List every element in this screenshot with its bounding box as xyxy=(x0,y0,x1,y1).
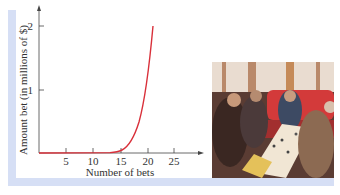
decorative-bottom-border xyxy=(8,178,334,186)
x-tick-label-25: 25 xyxy=(169,155,181,167)
y-axis-title: Amount bet (in millions of $) xyxy=(17,25,30,155)
y-axis-arrow-icon xyxy=(37,5,41,11)
people-playing-game-photo xyxy=(212,62,334,178)
exponential-growth-chart: 2 1 5 10 15 20 25 Number of bets Amount … xyxy=(0,0,215,178)
x-axis-arrow-icon xyxy=(198,151,204,155)
x-tick-label-5: 5 xyxy=(63,155,69,167)
growth-curve-line xyxy=(39,26,153,153)
x-axis-title: Number of bets xyxy=(86,166,154,178)
